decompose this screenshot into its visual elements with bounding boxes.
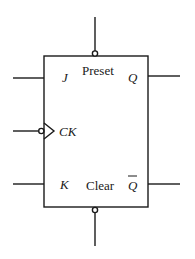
k-label: K [59,177,70,192]
clock-edge-triangle-icon [44,123,54,139]
preset-label: Preset [82,63,114,78]
ck-inversion-bubble [39,128,44,133]
jk-flip-flop-diagram: J Preset Q CK K Clear Q [0,0,195,259]
preset-inversion-bubble [92,51,97,56]
j-label: J [62,70,69,85]
clear-inversion-bubble [92,207,97,212]
q-label: Q [128,70,138,85]
clear-label: Clear [86,178,115,193]
q-bar-label: Q [128,178,138,193]
ck-label: CK [59,124,78,139]
